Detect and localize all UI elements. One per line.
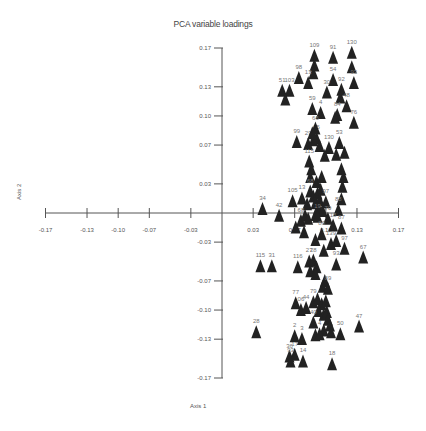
y-tick-label: 0.03 (199, 181, 211, 187)
point-label: 130 (347, 39, 358, 45)
x-tick-label: -0.17 (39, 227, 53, 233)
triangle-marker-icon (322, 86, 332, 99)
data-point: 34 (257, 195, 267, 215)
point-label: 105 (288, 187, 299, 193)
point-label: 44 (303, 294, 310, 300)
data-point: 3 (297, 325, 307, 345)
data-point: 53 (334, 129, 344, 149)
data-point: 2 (290, 322, 300, 342)
point-label: 93 (287, 347, 294, 353)
data-point: 105 (288, 187, 299, 207)
triangle-marker-icon (331, 257, 341, 270)
triangle-marker-icon (297, 332, 307, 345)
point-label: 109 (309, 42, 320, 48)
point-label: 130 (324, 134, 335, 140)
triangle-marker-icon (292, 135, 302, 148)
axes: -0.17-0.13-0.10-0.07-0.030.030.070.100.1… (39, 45, 405, 381)
triangle-marker-icon (251, 325, 261, 338)
triangle-marker-icon (358, 251, 368, 264)
triangle-marker-icon (354, 320, 364, 333)
plot-area: -0.17-0.13-0.10-0.07-0.030.030.070.100.1… (0, 0, 426, 431)
point-label: 40 (310, 309, 317, 315)
point-label: 31 (268, 252, 275, 258)
y-tick-label: 0.10 (199, 113, 211, 119)
point-label: 91 (330, 44, 337, 50)
point-label: 89 (325, 275, 332, 281)
point-label: 99 (293, 128, 300, 134)
data-point: 93 (349, 69, 359, 89)
point-label: 116 (293, 253, 303, 259)
point-label: 14 (300, 347, 307, 353)
data-point: 91 (328, 44, 338, 64)
x-tick-label: -0.10 (111, 227, 125, 233)
point-label: 2 (293, 322, 297, 328)
triangle-marker-icon (349, 76, 359, 89)
point-label: 66 (312, 115, 319, 121)
triangle-marker-icon (336, 162, 346, 175)
triangle-marker-icon (257, 202, 267, 215)
triangle-marker-icon (255, 259, 265, 272)
y-tick-label: 0.13 (199, 84, 211, 90)
data-point: 116 (293, 253, 303, 273)
triangle-marker-icon (308, 316, 318, 329)
point-label: 30 (324, 79, 331, 85)
triangle-marker-icon (307, 102, 317, 115)
point-label: 54 (330, 66, 337, 72)
point-label: 79 (310, 288, 317, 294)
y-tick-label: -0.17 (197, 375, 211, 381)
point-label: 13 (299, 184, 306, 190)
data-point (331, 148, 341, 161)
data-point: 14 (298, 347, 308, 367)
data-point: 103 (284, 77, 295, 97)
data-point: 93 (331, 250, 341, 270)
point-label: 92 (338, 76, 345, 82)
point-label: 88 (335, 196, 342, 202)
data-point: 50 (335, 320, 345, 340)
point-label: 68 (298, 207, 305, 213)
triangle-marker-icon (340, 242, 350, 255)
y-tick-label: -0.13 (197, 336, 211, 342)
data-point (336, 162, 346, 175)
point-label: 97 (322, 188, 329, 194)
point-label: 17 (291, 341, 298, 347)
point-label: 18 (329, 350, 336, 356)
data-point: 87 (336, 214, 346, 234)
point-label: 4 (318, 320, 322, 326)
point-label: 67 (360, 244, 367, 250)
point-label: 47 (356, 313, 363, 319)
y-tick-label: -0.07 (197, 278, 211, 284)
data-point: 98 (294, 64, 304, 84)
data-point: 31 (267, 252, 277, 272)
triangle-marker-icon (334, 136, 344, 149)
point-label: 18 (330, 212, 337, 218)
point-label: 59 (309, 95, 316, 101)
data-point: 115 (255, 252, 265, 272)
point-label: 93 (333, 250, 340, 256)
point-label: 68 (307, 178, 314, 184)
data-point: 47 (354, 313, 364, 333)
data-point: 99 (292, 128, 302, 148)
data-point: 115 (304, 148, 314, 168)
y-tick-label: -0.03 (197, 239, 211, 245)
data-point: 109 (309, 42, 320, 62)
triangle-marker-icon (331, 234, 341, 247)
point-label: 98 (295, 64, 302, 70)
triangle-marker-icon (335, 327, 345, 340)
triangle-marker-icon (349, 116, 359, 129)
data-point: 97 (340, 235, 350, 255)
point-label: 53 (336, 129, 343, 135)
triangle-marker-icon (267, 259, 277, 272)
triangle-marker-icon (327, 357, 337, 370)
triangle-marker-icon (288, 194, 298, 207)
point-label: 48 (343, 92, 350, 98)
point-label: 28 (310, 247, 317, 253)
y-tick-label: 0.07 (199, 142, 211, 148)
x-tick-label: -0.07 (142, 227, 156, 233)
point-label: 84 (334, 101, 341, 107)
triangle-marker-icon (274, 209, 284, 222)
data-points: 1099113098135493511033092485948476992965… (251, 39, 368, 371)
x-tick-label: 0.03 (247, 227, 259, 233)
point-label: 115 (304, 148, 314, 154)
y-axis-label: Axis 2 (16, 184, 22, 200)
point-label: 93 (351, 69, 358, 75)
